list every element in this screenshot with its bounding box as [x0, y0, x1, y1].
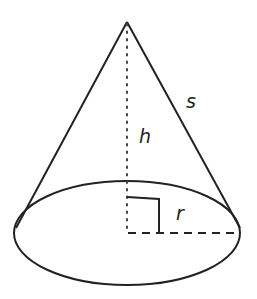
height-label: h: [139, 125, 151, 147]
slant-height-label: s: [186, 90, 196, 112]
right-angle-marker: [127, 197, 159, 233]
radius-label: r: [176, 202, 185, 224]
cone-diagram: h s r: [0, 0, 257, 299]
cone-left-slant-edge: [16, 22, 127, 228]
